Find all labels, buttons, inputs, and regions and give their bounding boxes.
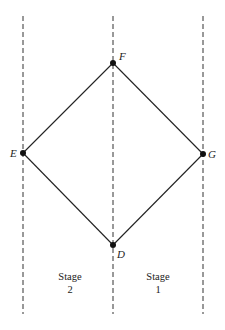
node-g — [200, 151, 206, 157]
node-label-g: G — [208, 148, 216, 160]
node-label-d: D — [116, 248, 125, 260]
stage-2-label-line2: 2 — [67, 284, 72, 295]
node-label-e: E — [9, 147, 17, 159]
node-e — [20, 150, 26, 156]
edge-g-d — [113, 154, 203, 245]
edge-f-e — [23, 63, 113, 153]
node-label-f: F — [118, 50, 126, 62]
stage-2-label-line1: Stage — [58, 271, 82, 282]
stage-1-label-line1: Stage — [146, 271, 170, 282]
edge-f-g — [113, 63, 203, 154]
stage-diagram: F E G D Stage 2 Stage 1 — [0, 0, 225, 330]
stage-1-label-line2: 1 — [155, 284, 160, 295]
node-d — [110, 242, 116, 248]
node-f — [110, 60, 116, 66]
edge-e-d — [23, 153, 113, 245]
